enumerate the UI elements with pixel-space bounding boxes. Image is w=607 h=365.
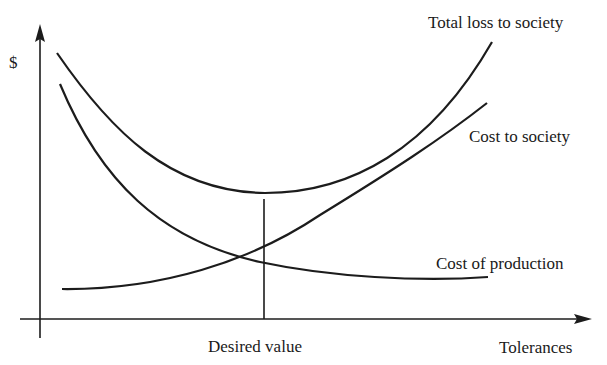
tolerance-cost-diagram: $ Total loss to society Cost to society …: [0, 0, 607, 365]
curve-total-loss: [57, 42, 492, 193]
label-cost-of-production: Cost of production: [436, 255, 564, 272]
diagram-canvas: [0, 0, 607, 365]
label-desired-value: Desired value: [208, 338, 302, 355]
label-total-loss: Total loss to society: [428, 14, 563, 31]
y-axis-label: $: [9, 54, 18, 71]
curve-cost-of-production: [60, 84, 488, 279]
label-cost-to-society: Cost to society: [469, 128, 570, 145]
x-axis-label: Tolerances: [499, 339, 572, 356]
